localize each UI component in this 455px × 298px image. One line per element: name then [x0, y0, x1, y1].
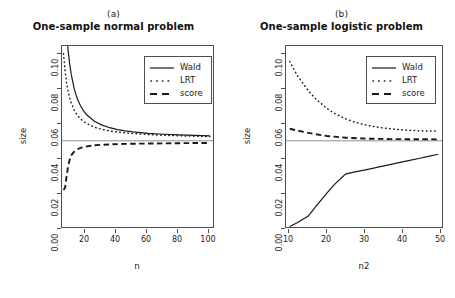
panel-a-xtick-label: 100 — [195, 235, 221, 244]
legend-key-dashed-icon — [149, 88, 175, 99]
panel-a-axis-title-y: size — [18, 121, 28, 151]
panel-b-xtick-mark — [440, 229, 441, 233]
legend-row-score: score — [371, 87, 430, 100]
panel-a: (a) One-sample normal problem 0.00 0.02 … — [0, 0, 227, 298]
legend-label-score: score — [402, 88, 425, 99]
legend-key-dotted-icon — [371, 75, 397, 86]
panel-b-series-wald — [290, 154, 439, 226]
panel-b-axis-title-x: n2 — [351, 261, 377, 271]
panel-b-ytick-label: 0.10 — [275, 52, 284, 84]
legend-row-lrt: LRT — [149, 74, 206, 87]
panel-b-ytick-label: 0.06 — [275, 122, 284, 154]
panel-b-xtick-mark — [364, 229, 365, 233]
legend-row-lrt: LRT — [371, 74, 430, 87]
panel-b-xtick-mark — [402, 229, 403, 233]
legend-label-score: score — [180, 88, 203, 99]
panel-b-xtick-label: 20 — [313, 235, 339, 244]
panel-a-xtick-mark — [208, 229, 209, 233]
legend-label-wald: Wald — [180, 62, 201, 73]
panel-a-title: One-sample normal problem — [0, 21, 227, 32]
panel-a-axis-title-x: n — [124, 261, 150, 271]
panel-a-xtick-label: 20 — [71, 235, 97, 244]
panel-b-tag: (b) — [228, 9, 455, 19]
legend-row-wald: Wald — [371, 61, 430, 74]
panel-a-xtick-mark — [84, 229, 85, 233]
panel-b-title: One-sample logistic problem — [228, 21, 455, 32]
legend-row-score: score — [149, 87, 206, 100]
panel-a-legend: Wald LRT score — [144, 56, 212, 104]
panel-a-tag: (a) — [0, 9, 227, 19]
legend-label-lrt: LRT — [180, 75, 195, 86]
panel-b-ytick-label: 0.04 — [275, 157, 284, 189]
legend-key-dashed-icon — [371, 88, 397, 99]
legend-key-solid-icon — [149, 62, 175, 73]
panel-a-ytick-label: 0.04 — [51, 157, 60, 189]
legend-label-lrt: LRT — [402, 75, 417, 86]
panel-a-xtick-label: 80 — [164, 235, 190, 244]
legend-key-solid-icon — [371, 62, 397, 73]
legend-key-dotted-icon — [149, 75, 175, 86]
panel-b-ytick-label: 0.08 — [275, 87, 284, 119]
panel-b: (b) One-sample logistic problem 0.00 0.0… — [228, 0, 455, 298]
panel-a-xtick-label: 40 — [102, 235, 128, 244]
panel-a-xtick-mark — [177, 229, 178, 233]
legend-label-wald: Wald — [402, 62, 423, 73]
panel-b-xtick-label: 40 — [389, 235, 415, 244]
panel-a-ytick-label: 0.02 — [51, 192, 60, 224]
panel-b-xtick-mark — [326, 229, 327, 233]
figure-root: (a) One-sample normal problem 0.00 0.02 … — [0, 0, 455, 298]
panel-a-ytick-label: 0.10 — [51, 52, 60, 84]
legend-row-wald: Wald — [149, 61, 206, 74]
panel-a-ytick-label: 0.08 — [51, 87, 60, 119]
panel-a-xtick-label: 60 — [133, 235, 159, 244]
panel-a-xtick-mark — [146, 229, 147, 233]
panel-b-ytick-label: 0.02 — [275, 192, 284, 224]
panel-a-series-score — [64, 143, 210, 190]
panel-b-legend: Wald LRT score — [366, 56, 436, 104]
panel-b-xtick-label: 30 — [351, 235, 377, 244]
panel-b-xtick-mark — [288, 229, 289, 233]
panel-b-xtick-label: 50 — [427, 235, 453, 244]
panel-b-xtick-label: 10 — [275, 235, 301, 244]
panel-a-xtick-mark — [115, 229, 116, 233]
panel-a-ytick-label: 0.00 — [51, 227, 60, 259]
panel-a-ytick-label: 0.06 — [51, 122, 60, 154]
panel-b-series-score — [290, 129, 439, 140]
panel-b-axis-title-y: size — [242, 121, 252, 151]
